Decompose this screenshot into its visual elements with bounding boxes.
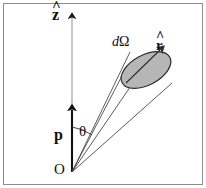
solid-angle-label: dΩ [112,35,129,49]
solid-angle-figure: ^ z ^ r dΩ θ p O [0,0,206,188]
figure-border [4,4,203,185]
solid-angle-d: d [112,34,119,49]
solid-angle-omega: Ω [119,34,129,49]
figure-canvas [0,0,206,188]
origin-label: O [54,162,65,177]
r-hat-label: ^ r [156,38,163,53]
z-axis-label: ^ z [52,7,59,23]
p-vector-label: p [54,127,63,143]
theta-label: θ [79,124,86,139]
r-hat-caret: ^ [156,29,163,43]
z-hat-caret: ^ [52,0,59,13]
